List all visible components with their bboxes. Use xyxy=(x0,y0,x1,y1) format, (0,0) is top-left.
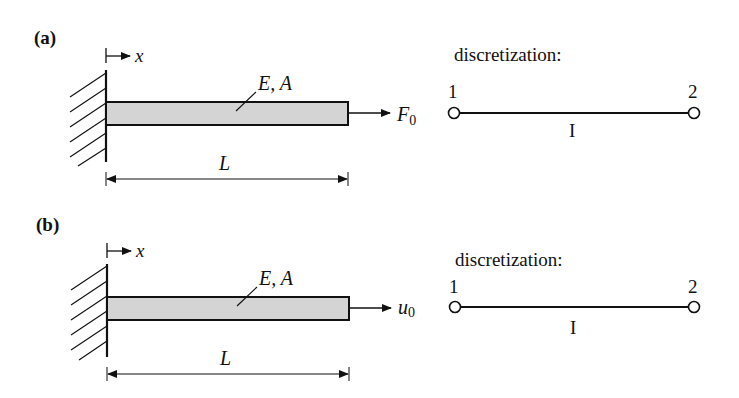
node-2-label: 2 xyxy=(688,276,698,297)
x-axis-label: x xyxy=(135,240,145,261)
fixed-support-wall-icon xyxy=(70,70,106,166)
element-label: I xyxy=(569,120,575,141)
element-label: I xyxy=(570,317,576,338)
x-axis-indicator: x xyxy=(107,240,145,261)
node-1-label: 1 xyxy=(448,81,458,102)
bar-diagram-figure: (a) x E, A F0 L xyxy=(0,0,739,398)
discretization-a: discretization: 1 2 I xyxy=(448,44,700,141)
node-1-circle-icon xyxy=(450,302,461,313)
panel-label: (a) xyxy=(34,27,56,49)
panel-label: (b) xyxy=(36,214,59,236)
discretization-title: discretization: xyxy=(455,249,563,270)
node-1-circle-icon xyxy=(449,108,460,119)
x-axis-indicator: x xyxy=(106,45,144,66)
node-2-circle-icon xyxy=(689,302,700,313)
length-label: L xyxy=(219,347,231,369)
panel-a: (a) x E, A F0 L xyxy=(34,27,700,186)
node-2-label: 2 xyxy=(688,81,698,102)
discretization-title: discretization: xyxy=(454,44,562,65)
bar-element xyxy=(106,102,348,125)
node-1-label: 1 xyxy=(449,276,459,297)
load-label: F0 xyxy=(396,103,416,128)
material-label: E, A xyxy=(258,267,294,289)
length-dimension: L xyxy=(106,152,348,186)
length-dimension: L xyxy=(107,347,349,381)
discretization-b: discretization: 1 2 I xyxy=(449,249,700,338)
panel-b: (b) x E, A u0 L xyxy=(36,214,700,381)
material-label: E, A xyxy=(257,72,293,94)
node-2-circle-icon xyxy=(689,108,700,119)
load-label: u0 xyxy=(398,296,415,320)
bar-element xyxy=(107,297,349,320)
length-label: L xyxy=(218,152,230,174)
fixed-support-wall-icon xyxy=(71,264,107,360)
x-axis-label: x xyxy=(134,45,144,66)
